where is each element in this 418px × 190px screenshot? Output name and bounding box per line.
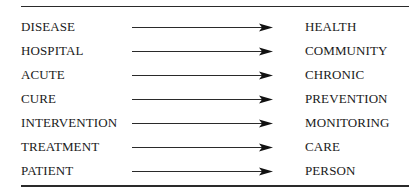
to-term: PREVENTION <box>305 89 388 109</box>
from-term: TREATMENT <box>21 137 99 157</box>
top-rule <box>21 6 409 7</box>
table-row: INTERVENTIONMONITORING <box>0 113 418 133</box>
table-row: HOSPITALCOMMUNITY <box>0 41 418 61</box>
from-term: DISEASE <box>21 17 75 37</box>
table-row: DISEASEHEALTH <box>0 17 418 37</box>
from-term: PATIENT <box>21 161 73 181</box>
to-term: CHRONIC <box>305 65 364 85</box>
from-term: ACUTE <box>21 65 65 85</box>
from-term: HOSPITAL <box>21 41 84 61</box>
from-term: INTERVENTION <box>21 113 117 133</box>
table-row: TREATMENTCARE <box>0 137 418 157</box>
to-term: PERSON <box>305 161 355 181</box>
right-arrow-icon <box>131 20 275 34</box>
from-term: CURE <box>21 89 56 109</box>
table-row: ACUTECHRONIC <box>0 65 418 85</box>
to-term: COMMUNITY <box>305 41 388 61</box>
to-term: CARE <box>305 137 340 157</box>
right-arrow-icon <box>131 140 275 154</box>
right-arrow-icon <box>131 68 275 82</box>
right-arrow-icon <box>131 164 275 178</box>
to-term: HEALTH <box>305 17 356 37</box>
right-arrow-icon <box>131 116 275 130</box>
bottom-rule <box>21 185 409 187</box>
to-term: MONITORING <box>305 113 390 133</box>
right-arrow-icon <box>131 44 275 58</box>
right-arrow-icon <box>131 92 275 106</box>
table-row: PATIENTPERSON <box>0 161 418 181</box>
table-row: CUREPREVENTION <box>0 89 418 109</box>
